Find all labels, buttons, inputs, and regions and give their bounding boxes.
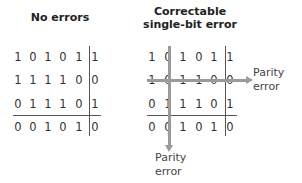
parity-bit: 1 <box>89 97 101 111</box>
parity-bit: 0 <box>12 120 24 134</box>
left-parity-row-divider <box>13 115 101 116</box>
data-bit: 0 <box>27 50 39 64</box>
data-bit: 0 <box>146 97 158 111</box>
data-bit: 1 <box>42 50 54 64</box>
data-bit: 1 <box>42 97 54 111</box>
parity-bit: 0 <box>89 120 101 134</box>
parity-bit: 1 <box>42 120 54 134</box>
parity-bit: 1 <box>73 120 85 134</box>
data-bit: 1 <box>27 97 39 111</box>
parity-bit: 1 <box>89 50 101 64</box>
parity-bit: 0 <box>146 120 158 134</box>
parity-bit: 0 <box>27 120 39 134</box>
data-bit: 1 <box>27 73 39 87</box>
left-parity-col-divider <box>89 46 90 136</box>
data-bit: 1 <box>146 50 158 64</box>
right-panel-title-line1: Correctable <box>140 5 240 18</box>
data-bit: 0 <box>208 97 220 111</box>
parity-bit: 0 <box>193 120 205 134</box>
data-bit: 0 <box>73 73 85 87</box>
data-bit: 0 <box>193 50 205 64</box>
data-bit: 1 <box>12 73 24 87</box>
data-bit: 1 <box>73 50 85 64</box>
data-bit: 1 <box>177 50 189 64</box>
row-error-arrow <box>147 79 247 82</box>
data-bit: 0 <box>12 97 24 111</box>
data-bit: 1 <box>177 97 189 111</box>
data-bit: 0 <box>73 97 85 111</box>
right-parity-row-divider <box>147 115 237 116</box>
data-bit: 1 <box>57 97 69 111</box>
data-bit: 1 <box>193 97 205 111</box>
parity-bit: 1 <box>177 120 189 134</box>
left-panel-title: No errors <box>20 11 100 24</box>
data-bit: 1 <box>12 50 24 64</box>
data-bit: 1 <box>57 73 69 87</box>
data-bit: 1 <box>208 50 220 64</box>
row-parity-error-label: Parity error <box>253 66 284 94</box>
right-parity-col-divider <box>225 46 226 136</box>
right-panel-title-line2: single-bit error <box>140 18 240 31</box>
row-error-arrowhead-icon <box>246 76 253 84</box>
parity-bit: 0 <box>57 120 69 134</box>
col-parity-error-label: Parity error <box>155 151 186 179</box>
parity-bit: 0 <box>89 73 101 87</box>
data-bit: 1 <box>42 73 54 87</box>
parity-bit: 1 <box>208 120 220 134</box>
col-error-arrow <box>168 46 171 146</box>
right-panel-title: Correctable single-bit error <box>140 5 240 31</box>
data-bit: 0 <box>57 50 69 64</box>
